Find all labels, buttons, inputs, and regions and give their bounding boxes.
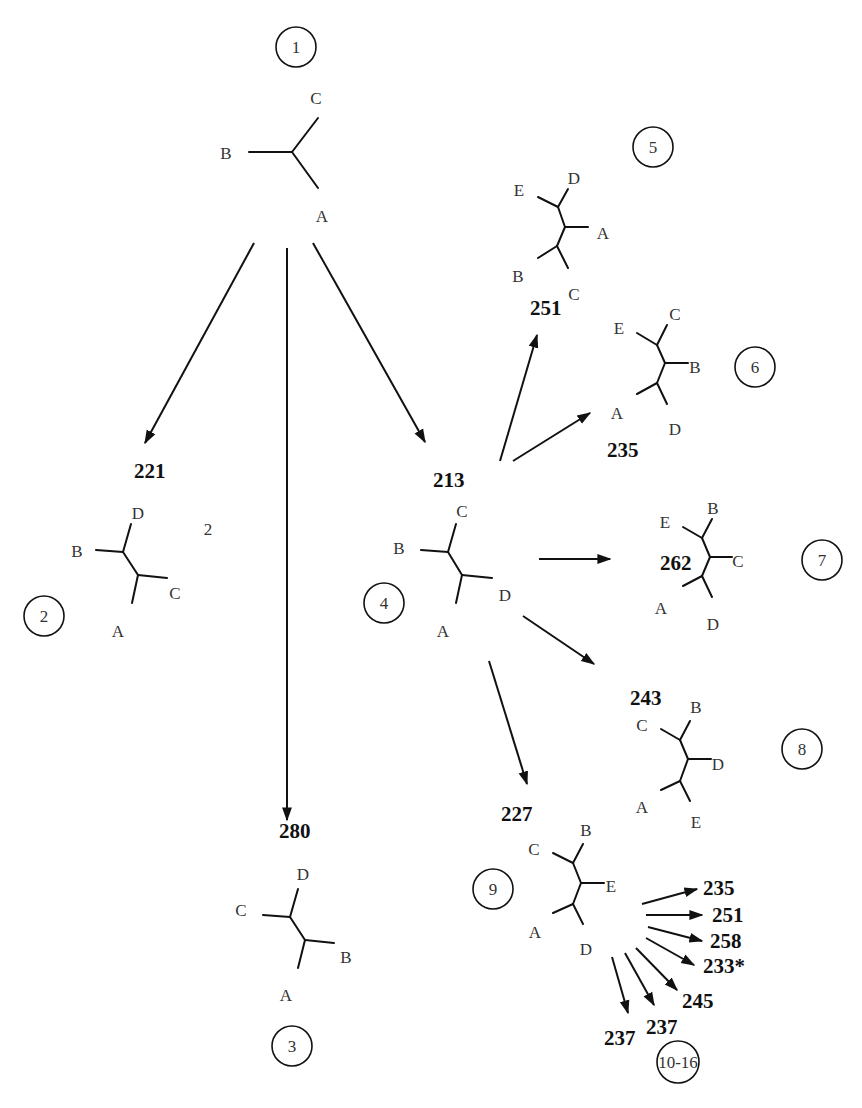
taxon-label: D <box>297 865 309 884</box>
taxon-label: C <box>669 305 680 324</box>
leaf-tree-score: 258 <box>710 929 742 953</box>
tree-node-2: 2221BDCA2 <box>24 459 212 641</box>
tree-branch <box>96 550 123 552</box>
tree-branch <box>421 550 448 552</box>
taxon-label: C <box>528 840 539 859</box>
tree-branch <box>462 575 492 578</box>
unrooted-tree-edges <box>553 844 604 924</box>
leaf-scores-layer: 235251258233*245237237 <box>604 876 745 1050</box>
taxon-label: A <box>655 599 668 618</box>
leaf-tree-score: 237 <box>646 1015 678 1039</box>
tree-branch <box>448 524 456 552</box>
tree-node-8: 8243CBDAE <box>630 686 822 832</box>
tree-score: 251 <box>530 296 562 320</box>
unrooted-tree-edges <box>421 524 492 603</box>
tree-node-10-16: 10-16 <box>657 1041 699 1083</box>
taxon-label: E <box>660 513 670 532</box>
taxon-label: A <box>280 986 293 1005</box>
taxon-label: C <box>456 502 467 521</box>
taxon-label: B <box>393 539 404 558</box>
unrooted-tree-edges <box>96 524 167 603</box>
unrooted-tree-edges <box>249 118 318 188</box>
step-number-badge: 8 <box>782 729 822 769</box>
leaf-tree-score: 245 <box>682 989 714 1013</box>
taxon-label: A <box>437 622 450 641</box>
step-number: 10-16 <box>658 1053 698 1072</box>
tree-branch <box>680 759 688 781</box>
step-number-badge: 9 <box>473 869 513 909</box>
tree-branch <box>558 207 565 227</box>
tree-branch <box>558 189 568 207</box>
tree-branch <box>557 246 568 268</box>
tree-node-6: 6235ECBAD <box>607 305 775 462</box>
tree-branch <box>657 345 665 363</box>
arrow-9-to-10-16235 <box>642 889 697 904</box>
arrow-4-to-6 <box>513 413 590 461</box>
taxon-label: A <box>529 923 542 942</box>
leaf-tree-score: 235 <box>703 876 735 900</box>
tree-branch <box>456 575 462 603</box>
taxon-label: A <box>597 224 610 243</box>
tree-branch <box>637 333 657 345</box>
taxon-label: D <box>568 169 580 188</box>
tree-branch <box>553 904 573 913</box>
tree-branch <box>573 883 581 904</box>
tree-branch <box>661 729 680 740</box>
step-number: 7 <box>818 551 827 570</box>
taxon-label: B <box>689 358 700 377</box>
annotation-label: 2 <box>204 520 213 539</box>
arrow-4-to-8 <box>523 616 594 664</box>
taxon-label: C <box>235 901 246 920</box>
step-number: 6 <box>751 358 760 377</box>
tree-score: 262 <box>660 551 692 575</box>
taxon-label: B <box>690 698 701 717</box>
arrow-1-to-4 <box>313 243 425 442</box>
taxon-label: A <box>611 404 624 423</box>
taxon-label: C <box>169 584 180 603</box>
tree-score: 243 <box>630 686 662 710</box>
taxon-label: B <box>512 267 523 286</box>
arrow-4-to-5 <box>500 335 537 461</box>
tree-branch <box>123 552 138 575</box>
taxon-label: A <box>112 622 125 641</box>
taxon-label: B <box>707 499 718 518</box>
step-number-badge: 2 <box>24 596 64 636</box>
step-number: 1 <box>292 38 301 57</box>
tree-node-5: 5251EDABC <box>512 127 673 320</box>
tree-branch <box>702 538 710 557</box>
tree-node-9: 9227CBEAD <box>473 802 616 959</box>
tree-branch <box>702 519 712 538</box>
arrow-9-to-10-16258 <box>648 927 702 941</box>
taxon-label: D <box>707 615 719 634</box>
taxon-label: E <box>614 319 624 338</box>
tree-branch <box>702 576 712 597</box>
arrow-4-to-9 <box>489 661 527 784</box>
taxon-label: E <box>514 181 524 200</box>
tree-branch <box>657 325 667 345</box>
taxon-label: D <box>499 586 511 605</box>
tree-score: 221 <box>134 459 166 483</box>
taxon-label: E <box>691 813 701 832</box>
taxon-label: C <box>636 716 647 735</box>
arrows-layer <box>145 243 702 1013</box>
step-number-badge: 4 <box>364 583 404 623</box>
tree-branch <box>702 557 710 576</box>
taxon-label: B <box>220 144 231 163</box>
step-number-badge: 1 <box>276 27 316 67</box>
tree-branch <box>637 383 657 394</box>
arrow-1-to-2 <box>145 243 254 443</box>
taxon-label: D <box>669 420 681 439</box>
taxon-label: A <box>316 207 329 226</box>
taxon-label: C <box>568 285 579 304</box>
tree-branch <box>683 527 702 538</box>
tree-branch <box>263 915 290 917</box>
tree-score: 280 <box>279 819 311 843</box>
tree-branch <box>661 781 680 790</box>
step-number-badge: 10-16 <box>657 1041 699 1083</box>
tree-node-4: 4213BCDA <box>364 468 511 641</box>
taxon-label: A <box>636 798 649 817</box>
tree-branch <box>573 844 583 863</box>
tree-branch <box>680 781 690 801</box>
taxon-label: D <box>132 504 144 523</box>
taxon-label: B <box>580 821 591 840</box>
